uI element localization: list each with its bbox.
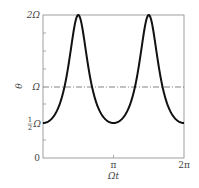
y-ticks	[43, 33, 114, 158]
y-tick-half-num: 1	[28, 116, 32, 124]
theta-dot-curve	[43, 15, 184, 123]
y-tick-zero: 0	[34, 153, 40, 163]
y-tick-2omega: 2Ω	[26, 10, 41, 20]
x-axis-label: Ωt	[107, 171, 119, 181]
y-tick-half-den: 2	[28, 124, 32, 132]
y-tick-half-omega: Ω	[33, 119, 42, 129]
chart: 2Ω Ω 1 2 Ω 0 π 2π Ωt θ	[0, 0, 199, 188]
x-tick-2pi: 2π	[178, 160, 190, 170]
y-tick-omega: Ω	[32, 82, 41, 92]
y-axis-label: θ	[14, 83, 24, 89]
x-tick-pi: π	[111, 160, 117, 170]
